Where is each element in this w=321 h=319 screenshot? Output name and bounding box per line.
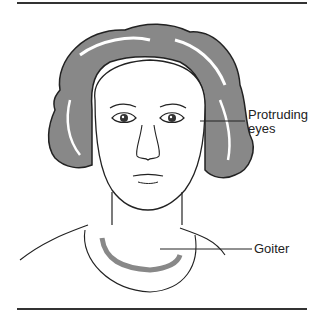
label-line2: eyes [248, 122, 308, 136]
goiter-label: Goiter [254, 242, 289, 256]
goiter [84, 230, 195, 292]
bottom-divider [17, 308, 307, 310]
face-outline [95, 60, 205, 210]
face-illustration [0, 0, 321, 319]
label-line1: Protruding [248, 108, 308, 122]
protruding-eyes-label: Protruding eyes [248, 108, 308, 136]
